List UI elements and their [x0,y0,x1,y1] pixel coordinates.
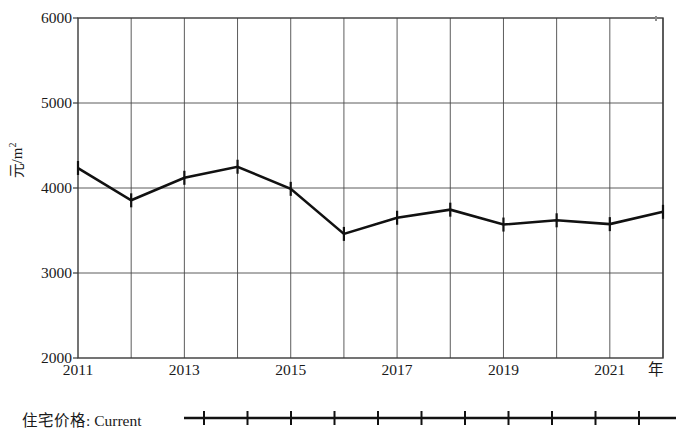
chart-container: 元/m2 20003000400050006000 年 住宅价格: Curren… [0,0,679,439]
y-axis-ticks: 20003000400050006000 [18,0,72,380]
y-axis-tick-label: 4000 [26,180,72,196]
y-axis-tick-label: 5000 [26,95,72,111]
y-axis-tick-label: 6000 [26,10,72,26]
chart-legend: 住宅价格: Current [22,406,672,434]
series-line [78,167,663,234]
x-axis-label: 年 [648,362,664,378]
y-axis-label-exponent: 2 [7,143,18,148]
legend-entry-label: 住宅价格: Current [22,408,142,430]
x-axis-tick-label: 2021 [580,362,640,378]
scan-artifact-speck [655,16,657,21]
x-axis-tick-label: 2011 [48,362,108,378]
x-axis-tick-label: 2013 [154,362,214,378]
legend-series-sample [180,406,679,430]
y-axis-tick-label: 3000 [26,265,72,281]
x-axis-tick-label: 2017 [367,362,427,378]
x-axis-tick-label: 2019 [473,362,533,378]
x-axis-tick-label: 2015 [261,362,321,378]
